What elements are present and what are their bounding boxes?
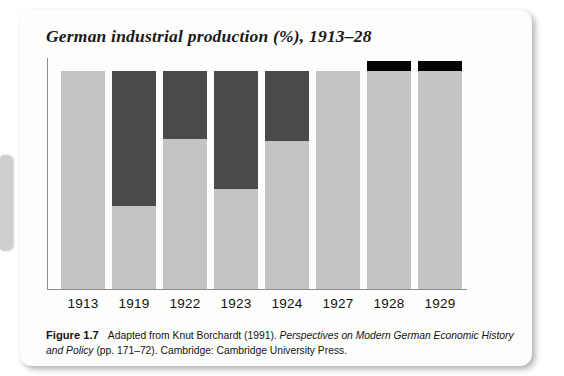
bar-1919 <box>112 71 156 289</box>
bar-segment-shortfall <box>163 71 207 139</box>
bar-stack <box>418 71 462 289</box>
figure-caption-text-before: Adapted from Knut Borchardt (1991). <box>108 330 280 341</box>
bar-stack <box>61 71 105 289</box>
figure-caption-label: Figure 1.7 <box>46 329 99 341</box>
bar-stack <box>367 71 411 289</box>
chart-plot-area <box>47 58 467 290</box>
bar-segment-excess <box>367 61 411 71</box>
bar-stack <box>112 71 156 289</box>
bar-1927 <box>316 71 360 289</box>
bar-segment-shortfall <box>265 71 309 141</box>
page-title: German industrial production (%), 1913–2… <box>46 26 372 47</box>
bar-1922 <box>163 71 207 289</box>
bar-stack <box>163 71 207 289</box>
x-axis-tick-labels: 19131919192219231924192719281929 <box>47 296 467 316</box>
bar-stack <box>316 71 360 289</box>
bar-segment-production <box>316 71 360 289</box>
bar-1929 <box>418 71 462 289</box>
bar-stack <box>265 71 309 289</box>
figure-caption-text-after: (pp. 171–72). Cambridge: Cambridge Unive… <box>94 345 348 356</box>
bar-stack <box>214 71 258 289</box>
bars-layer <box>47 58 467 290</box>
bar-segment-production <box>163 139 207 289</box>
bar-segment-shortfall <box>112 71 156 206</box>
bar-1924 <box>265 71 309 289</box>
bar-segment-excess <box>418 61 462 71</box>
bar-segment-production <box>214 189 258 289</box>
figure-caption: Figure 1.7Adapted from Knut Borchardt (1… <box>46 328 514 358</box>
page-edge-tab <box>0 155 13 251</box>
bar-segment-production <box>367 71 411 289</box>
bar-segment-shortfall <box>214 71 258 189</box>
bar-segment-production <box>418 71 462 289</box>
bar-segment-production <box>112 206 156 289</box>
bar-1928 <box>367 71 411 289</box>
bar-1913 <box>61 71 105 289</box>
bar-segment-production <box>61 71 105 289</box>
bar-1923 <box>214 71 258 289</box>
figure-card: German industrial production (%), 1913–2… <box>20 10 532 366</box>
x-axis-label-1929: 1929 <box>410 296 470 311</box>
bar-segment-production <box>265 141 309 289</box>
